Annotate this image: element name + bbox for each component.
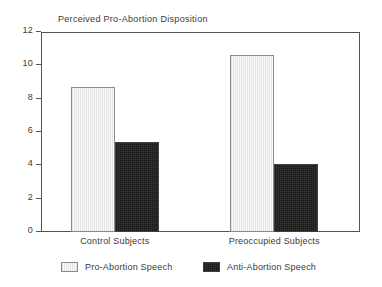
y-tick-label: 6 [28, 125, 33, 135]
bar-anti-group-1 [274, 164, 318, 232]
y-tick-label: 0 [28, 225, 33, 235]
y-tick-label: 4 [28, 158, 33, 168]
legend-label: Pro-Abortion Speech [85, 262, 172, 272]
x-axis-labels: Control SubjectsPreoccupied Subjects [41, 236, 360, 252]
y-tick-label: 10 [23, 58, 33, 68]
chart-title: Perceived Pro-Abortion Disposition [58, 14, 208, 24]
legend-item-anti[interactable]: Anti-Abortion Speech [203, 262, 316, 272]
y-tick-label: 8 [28, 92, 33, 102]
bars-layer [41, 32, 360, 232]
legend-swatch-icon [203, 262, 220, 272]
legend-swatch-icon [61, 262, 78, 272]
bar-pro-group-0 [71, 87, 115, 232]
legend-label: Anti-Abortion Speech [227, 262, 316, 272]
y-axis: 024681012 [0, 0, 41, 287]
x-axis-label-1: Preoccupied Subjects [229, 236, 320, 246]
x-axis-label-0: Control Subjects [80, 236, 149, 246]
bar-chart: Perceived Pro-Abortion Disposition 02468… [0, 0, 382, 287]
bar-pro-group-1 [230, 55, 274, 232]
chart-legend: Pro-Abortion SpeechAnti-Abortion Speech [41, 262, 360, 278]
bar-anti-group-0 [115, 142, 159, 232]
legend-item-pro[interactable]: Pro-Abortion Speech [61, 262, 172, 272]
y-tick-label: 12 [23, 25, 33, 35]
y-tick-label: 2 [28, 192, 33, 202]
